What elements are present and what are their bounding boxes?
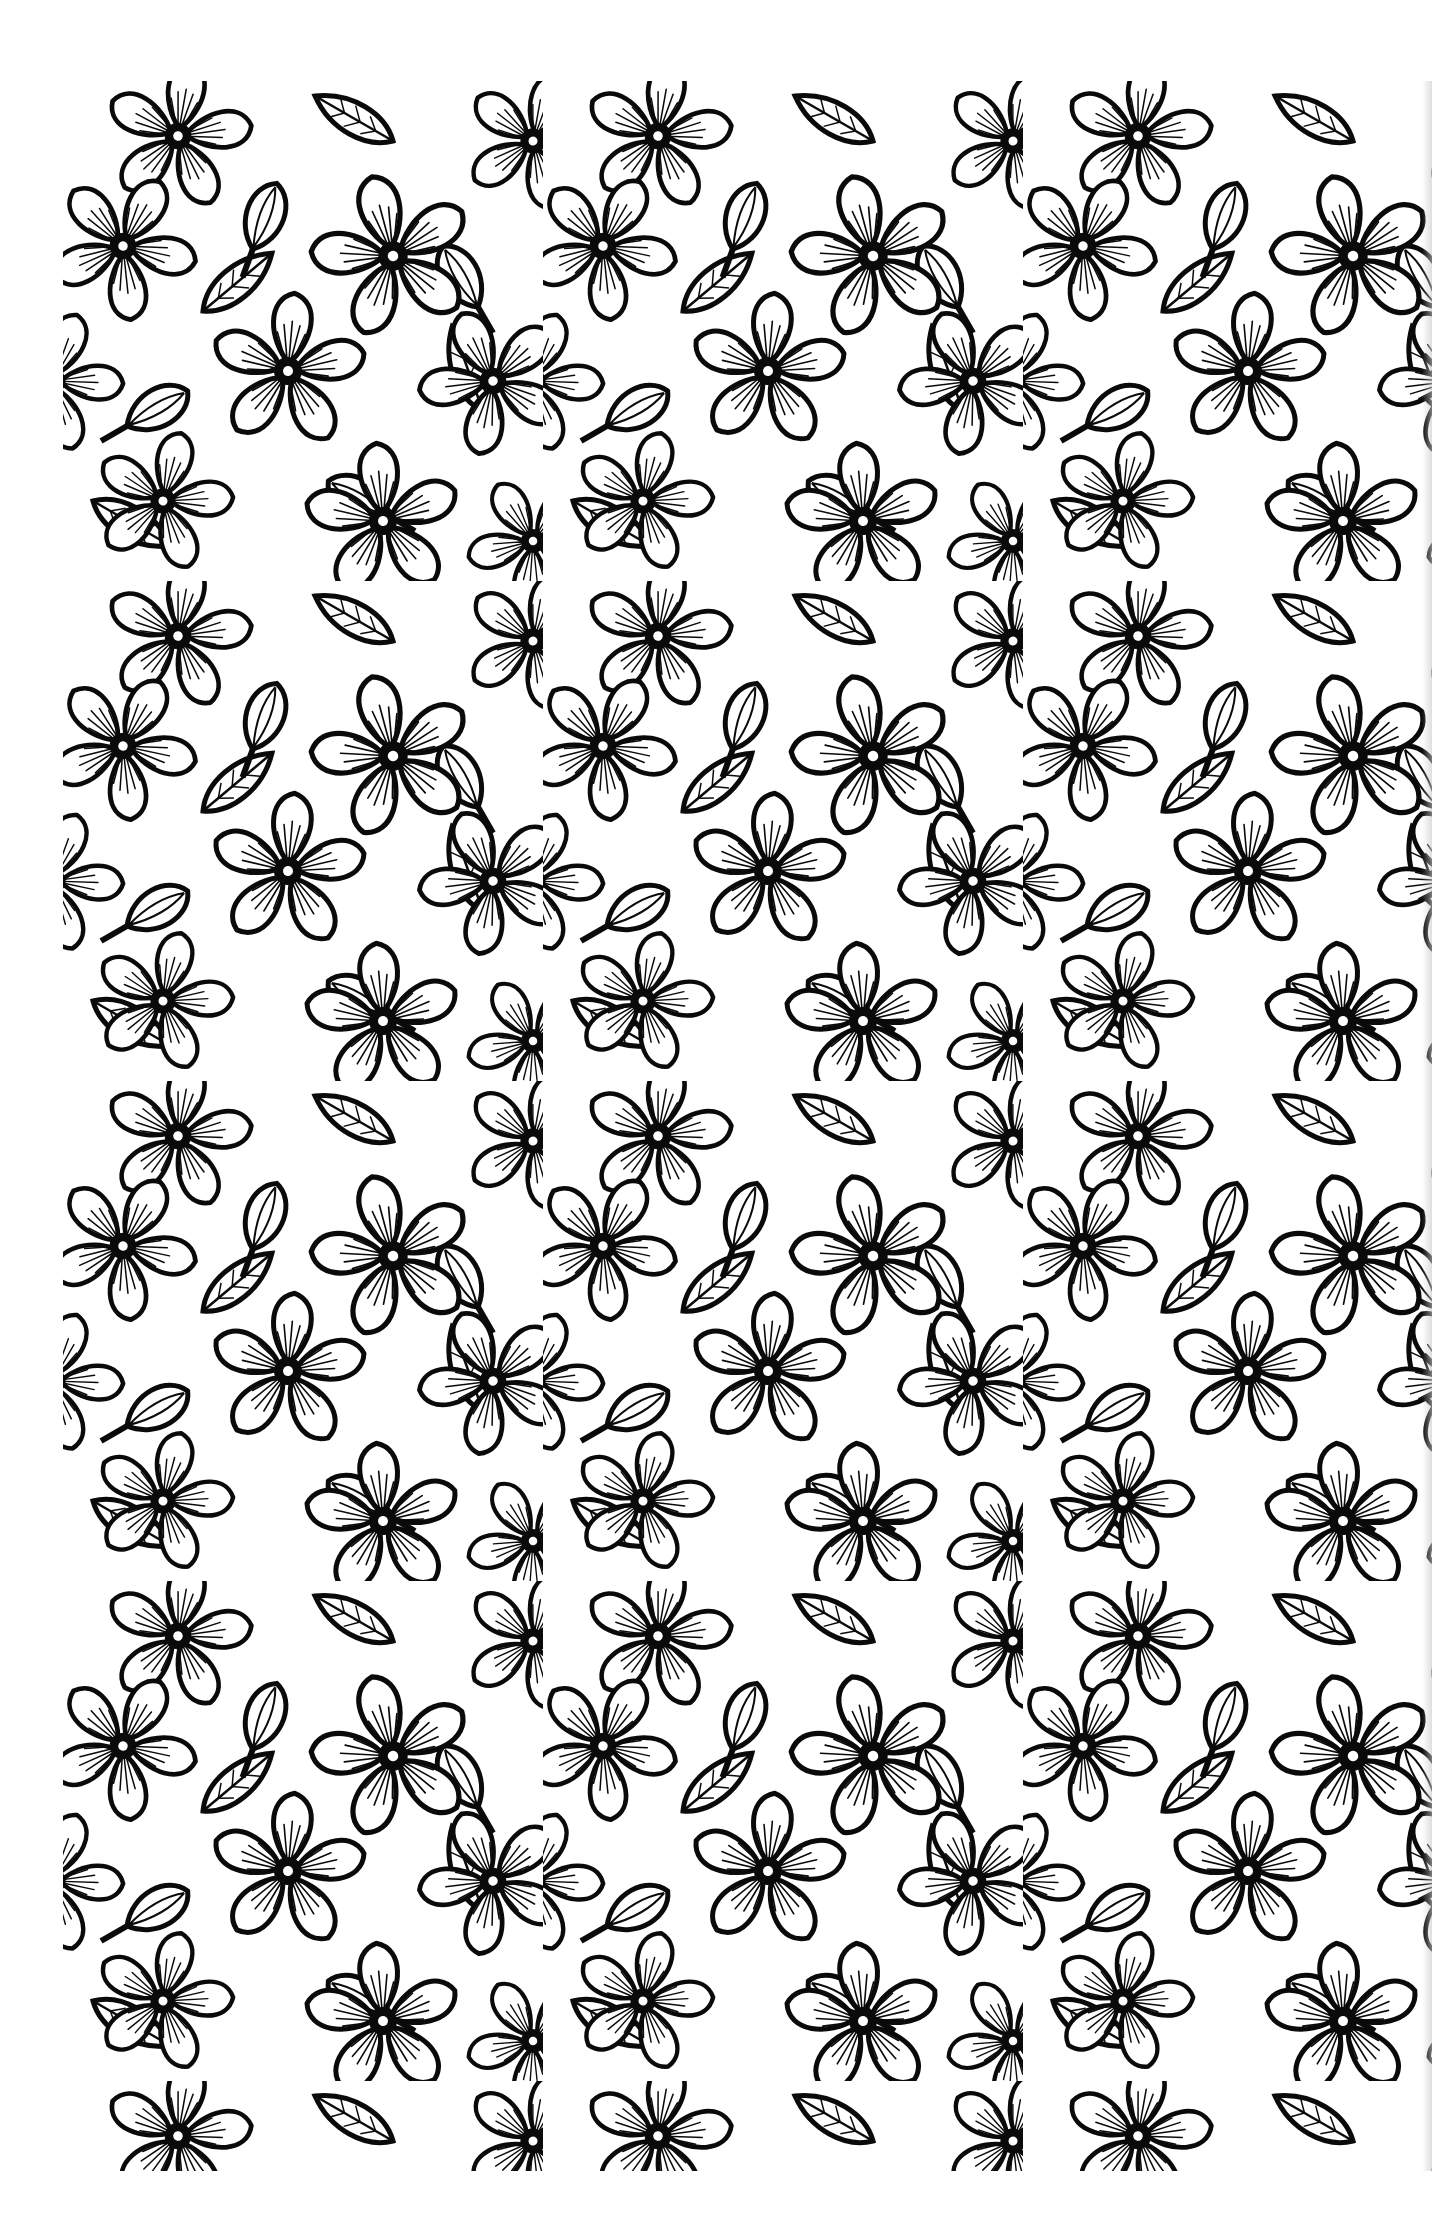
floral-pattern [63,81,1432,2171]
page-edge-shadow [1422,81,1432,2171]
floral-pattern-svg [63,81,1432,2171]
coloring-page: Black and white floral coloring page wit… [0,0,1432,2238]
